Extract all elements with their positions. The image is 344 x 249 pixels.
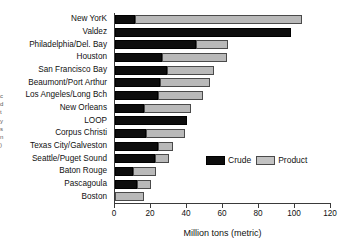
bar-segment-crude [115, 142, 158, 151]
legend: Crude Product [206, 155, 307, 165]
bar-segment-crude [115, 129, 146, 138]
x-axis-tick [150, 204, 151, 208]
x-axis-tick [222, 204, 223, 208]
x-axis-tick [114, 204, 115, 208]
category-label: Beaumont/Port Arthur [28, 77, 107, 89]
bar-segment-crude [115, 15, 135, 24]
bar-segment-product [162, 53, 227, 62]
category-label: Los Angeles/Long Bch [26, 89, 107, 101]
x-axis-tick [330, 204, 331, 208]
bar-segment-crude [115, 116, 187, 125]
x-axis-tick [186, 204, 187, 208]
x-axis-tick-label: 80 [243, 209, 273, 219]
x-axis-tick-label: 60 [207, 209, 237, 219]
category-label: Houston [77, 51, 108, 63]
bar-segment-product [155, 154, 169, 163]
category-label: New YorK [71, 13, 107, 25]
legend-item-product: Product [256, 155, 307, 165]
bar-segment-product [196, 40, 228, 49]
bar-segment-product [115, 192, 144, 201]
category-label: Texas City/Galveston [30, 140, 107, 152]
legend-label-crude: Crude [228, 155, 251, 165]
bar-segment-product [167, 66, 214, 75]
x-axis-tick-label: 0 [99, 209, 129, 219]
legend-swatch-icon-product [256, 156, 275, 165]
bar-segment-product [144, 104, 191, 113]
bar-segment-product [135, 15, 302, 24]
category-label: Baton Rouge [59, 165, 107, 177]
bar-segment-crude [115, 28, 291, 37]
category-label: LOOP [84, 115, 107, 127]
bar-segment-crude [115, 154, 155, 163]
bar-segment-crude [115, 180, 137, 189]
bar-segment-crude [115, 66, 167, 75]
legend-item-crude: Crude [206, 155, 251, 165]
x-axis-tick-label: 20 [135, 209, 165, 219]
bar-segment-crude [115, 167, 133, 176]
bar-segment-crude [115, 104, 144, 113]
plot-area: 020406080100120 [114, 13, 330, 203]
x-axis-tick [258, 204, 259, 208]
x-axis-tick-label: 100 [279, 209, 309, 219]
category-label: Boston [82, 191, 108, 203]
category-label: San Francisco Bay [38, 64, 107, 76]
category-label: Corpus Christi [55, 127, 107, 139]
category-axis-labels: New YorKValdezPhiladelphia/Del. BayHoust… [0, 13, 110, 203]
x-axis-tick-label: 40 [171, 209, 201, 219]
category-label: Pascagoula [64, 178, 107, 190]
bar-segment-product [137, 180, 151, 189]
category-label: New Orleans [60, 102, 107, 114]
category-label: Seattle/Puget Sound [32, 153, 107, 165]
bar-segment-crude [115, 40, 196, 49]
x-axis-tick [294, 204, 295, 208]
category-label: Valdez [83, 26, 107, 38]
bar-segment-crude [115, 53, 162, 62]
bar-segment-product [160, 78, 210, 87]
bar-segment-product [133, 167, 156, 176]
x-axis-tick-label: 120 [315, 209, 344, 219]
legend-label-product: Product [278, 155, 307, 165]
x-axis-title: Million tons (metric) [114, 228, 331, 238]
bar-segment-product [158, 91, 203, 100]
bar-segment-product [158, 142, 172, 151]
bar-chart: c d t y s n ) New YorKValdezPhiladelphia… [0, 0, 344, 249]
category-label: Philadelphia/Del. Bay [29, 39, 107, 51]
bar-segment-product [146, 129, 186, 138]
bar-segment-crude [115, 91, 158, 100]
bar-segment-crude [115, 78, 160, 87]
legend-swatch-icon-crude [206, 156, 225, 165]
